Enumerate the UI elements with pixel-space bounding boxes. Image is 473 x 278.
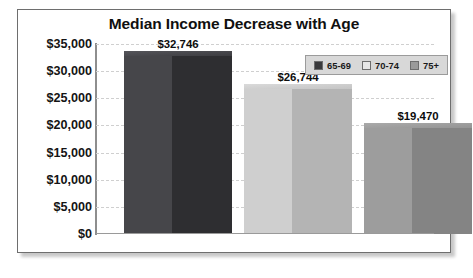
y-axis-tick-labels: $35,000 $30,000 $25,000 $20,000 $15,000 … (18, 44, 92, 234)
legend-swatch-icon (314, 61, 323, 70)
bar-value-label: $32,746 (157, 38, 198, 50)
legend-label: 70-74 (375, 60, 399, 71)
y-tick-label: $30,000 (20, 64, 92, 78)
x-axis-baseline (96, 233, 434, 234)
bar-right-face (292, 89, 352, 234)
chart-title: Median Income Decrease with Age (18, 15, 450, 33)
y-tick-label: $25,000 (20, 91, 92, 105)
bar-left-face (124, 56, 172, 234)
legend-item-65-69[interactable]: 65-69 (314, 60, 351, 71)
bar-left-face (244, 89, 292, 234)
bar-right-face (412, 128, 472, 234)
y-tick-label: $35,000 (20, 37, 92, 51)
bar-right-face (172, 56, 232, 234)
y-tick-label: $5,000 (20, 200, 92, 214)
legend-swatch-icon (362, 61, 371, 70)
legend-item-75-plus[interactable]: 75+ (410, 60, 439, 71)
y-tick-label: $0 (20, 227, 92, 241)
chart-legend: 65-69 70-74 75+ (305, 55, 448, 75)
bar-value-label: $19,470 (397, 110, 438, 122)
gridline (96, 44, 434, 45)
y-tick-label: $20,000 (20, 118, 92, 132)
chart-screenshot: Median Income Decrease with Age $35,000 … (0, 0, 473, 278)
legend-label: 75+ (423, 60, 439, 71)
bar-65-69[interactable]: $32,746 (124, 56, 232, 234)
y-tick-label: $10,000 (20, 173, 92, 187)
chart-card: Median Income Decrease with Age $35,000 … (17, 9, 451, 253)
bar-70-74[interactable]: $26,744 (244, 89, 352, 234)
legend-label: 65-69 (327, 60, 351, 71)
y-tick-label: $15,000 (20, 146, 92, 160)
bar-left-face (364, 128, 412, 234)
legend-swatch-icon (410, 61, 419, 70)
legend-item-70-74[interactable]: 70-74 (362, 60, 399, 71)
bar-75-plus[interactable]: $19,470 (364, 128, 472, 234)
